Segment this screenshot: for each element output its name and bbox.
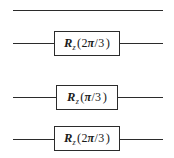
gate-subscript-z: z <box>73 139 76 147</box>
wire-segment-left <box>13 139 54 140</box>
rz-gate-label: Rz(π/3) <box>67 91 107 104</box>
gate-subscript-z: z <box>76 98 79 106</box>
pi-symbol: π <box>87 37 94 49</box>
wire-segment-left <box>13 43 54 44</box>
close-paren: ) <box>104 132 110 145</box>
close-paren: ) <box>104 37 110 50</box>
wire-segment <box>13 10 163 11</box>
rz-gate-wire-2[interactable]: Rz(2π/3) <box>54 31 120 56</box>
rz-gate-label: Rz(2π/3) <box>64 132 110 145</box>
pi-symbol: π <box>87 132 94 144</box>
rz-gate-wire-3[interactable]: Rz(π/3) <box>56 85 118 110</box>
wire-segment-right <box>118 97 163 98</box>
wire-segment-right <box>120 139 163 140</box>
gate-symbol-r: R <box>64 132 72 145</box>
gate-subscript-z: z <box>73 44 76 52</box>
rz-gate-label: Rz(2π/3) <box>64 37 110 50</box>
rz-gate-wire-4[interactable]: Rz(2π/3) <box>54 126 120 151</box>
wire-segment-right <box>120 43 163 44</box>
quantum-circuit-diagram: Rz(2π/3) Rz(π/3) Rz(2π/3) <box>0 0 174 158</box>
wire-segment-left <box>13 97 56 98</box>
gate-symbol-r: R <box>67 91 75 104</box>
close-paren: ) <box>101 91 107 104</box>
pi-symbol: π <box>84 91 91 103</box>
gate-symbol-r: R <box>64 37 72 50</box>
